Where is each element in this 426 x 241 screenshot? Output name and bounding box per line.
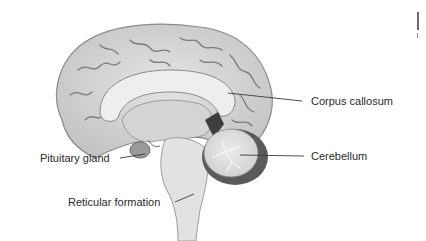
- brain-illustration: [0, 0, 426, 241]
- edge-mark: [417, 12, 419, 30]
- brain-diagram: Corpus callosum Cerebellum Pituitary gla…: [0, 0, 426, 241]
- label-corpus-callosum: Corpus callosum: [311, 95, 393, 107]
- edge-mark-small: [417, 33, 418, 38]
- label-pituitary-gland: Pituitary gland: [40, 152, 110, 164]
- label-reticular-formation: Reticular formation: [68, 196, 160, 208]
- brainstem: [161, 138, 208, 241]
- label-cerebellum: Cerebellum: [311, 150, 367, 162]
